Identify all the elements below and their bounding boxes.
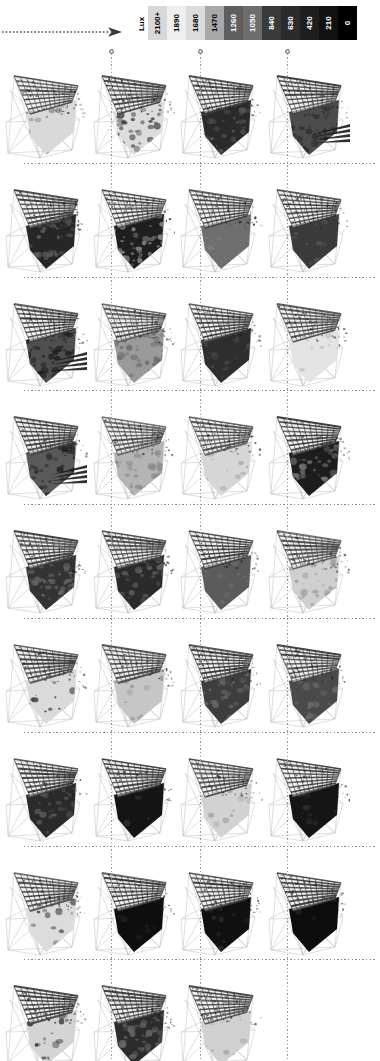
legend-swatch-label: 1470 xyxy=(211,14,219,32)
legend-swatch-1680: 1680 xyxy=(186,6,205,40)
legend-swatch-label: 1890 xyxy=(173,14,181,32)
pavilion-render xyxy=(0,619,88,733)
legend-swatch-label: 210 xyxy=(325,16,333,29)
simulation-cell[interactable] xyxy=(0,847,88,961)
matrix-row xyxy=(0,733,380,847)
simulation-cell[interactable] xyxy=(0,960,88,1061)
pavilion-render xyxy=(263,391,351,505)
simulation-cell[interactable] xyxy=(0,733,88,847)
legend-swatch-2100plus: 2100+ xyxy=(148,6,167,40)
pavilion-render xyxy=(175,164,263,278)
legend-swatch-630: 630 xyxy=(281,6,300,40)
simulation-cell[interactable] xyxy=(263,619,351,733)
pavilion-render xyxy=(263,505,351,619)
simulation-cell[interactable] xyxy=(263,505,351,619)
simulation-cell[interactable] xyxy=(175,960,263,1061)
pavilion-render xyxy=(88,847,176,961)
legend-swatch-label: 0 xyxy=(344,21,352,25)
simulation-cell[interactable] xyxy=(175,505,263,619)
simulation-cell[interactable] xyxy=(263,50,351,164)
simulation-cell[interactable] xyxy=(0,619,88,733)
simulation-cell[interactable] xyxy=(88,847,176,961)
pavilion-render xyxy=(263,164,351,278)
matrix-row xyxy=(0,847,380,961)
simulation-cell[interactable] xyxy=(175,391,263,505)
simulation-cell[interactable] xyxy=(0,505,88,619)
simulation-cell[interactable] xyxy=(175,847,263,961)
pavilion-render xyxy=(263,50,351,164)
legend-swatch-label: 840 xyxy=(268,16,276,29)
pavilion-render xyxy=(88,960,176,1061)
simulation-cell[interactable] xyxy=(88,164,176,278)
simulation-cell[interactable] xyxy=(88,733,176,847)
empty-cell xyxy=(263,960,351,1061)
simulation-cell[interactable] xyxy=(88,619,176,733)
matrix-row xyxy=(0,164,380,278)
simulation-cell[interactable] xyxy=(0,391,88,505)
pavilion-render xyxy=(175,391,263,505)
time-progression-arrow xyxy=(2,26,124,38)
matrix-row xyxy=(0,619,380,733)
pavilion-render xyxy=(175,847,263,961)
simulation-cell[interactable] xyxy=(263,278,351,392)
column-marker-icon xyxy=(109,49,114,54)
pavilion-render xyxy=(0,164,88,278)
simulation-cell[interactable] xyxy=(175,50,263,164)
pavilion-render xyxy=(88,619,176,733)
pavilion-render xyxy=(263,619,351,733)
legend-swatch-0: 0 xyxy=(338,6,357,40)
pavilion-render xyxy=(0,278,88,392)
column-divider xyxy=(111,50,112,1061)
simulation-cell[interactable] xyxy=(0,164,88,278)
pavilion-render xyxy=(175,619,263,733)
matrix-row xyxy=(0,50,380,164)
pavilion-render xyxy=(0,391,88,505)
simulation-cell[interactable] xyxy=(263,847,351,961)
simulation-cell[interactable] xyxy=(88,50,176,164)
legend-swatch-label: 420 xyxy=(306,16,314,29)
pavilion-render xyxy=(263,847,351,961)
pavilion-render xyxy=(88,505,176,619)
simulation-cell[interactable] xyxy=(0,50,88,164)
legend-title-label: Lux xyxy=(137,17,146,31)
simulation-cell[interactable] xyxy=(88,960,176,1061)
simulation-cell[interactable] xyxy=(263,733,351,847)
simulation-cell[interactable] xyxy=(88,278,176,392)
pavilion-render xyxy=(88,278,176,392)
simulation-cell[interactable] xyxy=(175,619,263,733)
legend-swatch-label: 2100+ xyxy=(154,12,162,34)
simulation-cell[interactable] xyxy=(263,164,351,278)
legend-swatch-label: 1050 xyxy=(249,14,257,32)
matrix-row xyxy=(0,391,380,505)
pavilion-render xyxy=(0,847,88,961)
simulation-cell[interactable] xyxy=(88,391,176,505)
legend-swatch-210: 210 xyxy=(319,6,338,40)
column-marker-icon xyxy=(285,49,290,54)
simulation-cell[interactable] xyxy=(88,505,176,619)
pavilion-render xyxy=(175,960,263,1061)
pavilion-render xyxy=(0,505,88,619)
simulation-cell[interactable] xyxy=(0,278,88,392)
column-divider xyxy=(287,50,288,1061)
pavilion-render xyxy=(88,733,176,847)
legend-swatch-1470: 1470 xyxy=(205,6,224,40)
pavilion-render xyxy=(0,733,88,847)
pavilion-render xyxy=(263,733,351,847)
simulation-cell[interactable] xyxy=(175,164,263,278)
legend-swatch-label: 1260 xyxy=(230,14,238,32)
simulation-cell[interactable] xyxy=(175,733,263,847)
simulation-cell[interactable] xyxy=(175,278,263,392)
legend-swatch-label: 1680 xyxy=(192,14,200,32)
column-marker-icon xyxy=(198,49,203,54)
legend-swatch-1050: 1050 xyxy=(243,6,262,40)
pavilion-render xyxy=(88,391,176,505)
matrix-row xyxy=(0,278,380,392)
pavilion-render xyxy=(88,164,176,278)
pavilion-render xyxy=(175,50,263,164)
lux-legend: Lux 2100+1890168014701260105084063042021… xyxy=(134,6,357,42)
pavilion-render xyxy=(263,278,351,392)
pavilion-render xyxy=(0,50,88,164)
simulation-cell[interactable] xyxy=(263,391,351,505)
pavilion-render xyxy=(88,50,176,164)
matrix-row xyxy=(0,505,380,619)
